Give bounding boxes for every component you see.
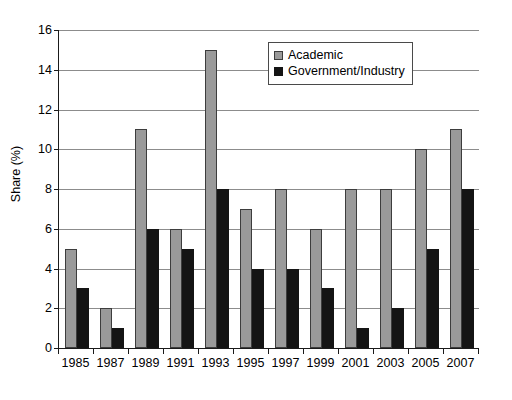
bar-academic <box>135 129 147 348</box>
y-axis-title-text: Share (%) <box>9 146 23 202</box>
bar-academic <box>275 189 287 348</box>
bar-academic <box>65 249 77 348</box>
x-axis-tick-label: 1989 <box>132 356 160 370</box>
bar-government-industry <box>287 269 299 349</box>
x-axis-tick-label: 1987 <box>97 356 125 370</box>
bar-academic <box>415 149 427 348</box>
bar-group <box>94 30 129 348</box>
x-axis-tick-mark <box>373 348 374 354</box>
bar-government-industry <box>217 189 229 348</box>
x-axis-tick-marks <box>58 348 478 354</box>
bar-government-industry <box>112 328 124 348</box>
legend-swatch-icon <box>274 51 283 60</box>
x-axis-tick-mark <box>233 348 234 354</box>
legend-label: Government/Industry <box>288 64 405 80</box>
bar-academic <box>170 229 182 348</box>
bar-academic <box>205 50 217 348</box>
chart-figure: Share (%) 0246810121416 1985198719891991… <box>0 0 512 400</box>
legend-swatch-icon <box>274 67 283 76</box>
x-axis-tick-label: 2007 <box>447 356 475 370</box>
y-axis-tick-label: 0 <box>45 341 52 355</box>
bar-group <box>444 30 479 348</box>
x-axis-tick-label: 1997 <box>272 356 300 370</box>
y-axis-tick-label: 6 <box>45 222 52 236</box>
bar-academic <box>345 189 357 348</box>
x-axis-tick-label: 1991 <box>167 356 195 370</box>
x-axis-tick-label: 2005 <box>412 356 440 370</box>
bar-group <box>164 30 199 348</box>
bar-group <box>59 30 94 348</box>
x-axis-tick-label: 1985 <box>62 356 90 370</box>
x-axis-tick-mark <box>93 348 94 354</box>
x-axis-tick-mark <box>443 348 444 354</box>
y-axis-tick-label: 10 <box>38 142 52 156</box>
bar-academic <box>100 308 112 348</box>
x-axis-tick-label: 2001 <box>342 356 370 370</box>
bar-government-industry <box>252 269 264 349</box>
x-axis-tick-mark <box>303 348 304 354</box>
x-axis-tick-label: 2003 <box>377 356 405 370</box>
y-axis-tick-label: 2 <box>45 301 52 315</box>
bar-academic <box>380 189 392 348</box>
bar-government-industry <box>182 249 194 348</box>
x-axis-tick-mark <box>128 348 129 354</box>
bar-government-industry <box>462 189 474 348</box>
bar-government-industry <box>322 288 334 348</box>
y-axis-tick-label: 8 <box>45 182 52 196</box>
x-axis-tick-mark <box>478 348 479 354</box>
legend-item: Academic <box>274 48 405 64</box>
x-axis-tick-mark <box>338 348 339 354</box>
legend-item: Government/Industry <box>274 64 405 80</box>
y-axis-tick-label: 16 <box>38 23 52 37</box>
bar-government-industry <box>392 308 404 348</box>
x-axis-tick-label: 1995 <box>237 356 265 370</box>
legend: AcademicGovernment/Industry <box>268 42 413 85</box>
bar-academic <box>310 229 322 348</box>
bar-government-industry <box>357 328 369 348</box>
x-axis-tick-label: 1993 <box>202 356 230 370</box>
bar-government-industry <box>427 249 439 348</box>
y-axis-tick-label: 12 <box>38 103 52 117</box>
x-axis-tick-mark <box>268 348 269 354</box>
x-axis-tick-mark <box>163 348 164 354</box>
x-axis-tick-mark <box>408 348 409 354</box>
x-axis-tick-label: 1999 <box>307 356 335 370</box>
y-axis-tick-label: 4 <box>45 262 52 276</box>
bar-academic <box>450 129 462 348</box>
legend-label: Academic <box>288 48 343 64</box>
bar-government-industry <box>77 288 89 348</box>
y-axis-tick-labels: 0246810121416 <box>24 24 52 348</box>
x-axis-tick-mark <box>198 348 199 354</box>
x-axis-tick-labels: 1985198719891991199319951997199920012003… <box>58 356 478 376</box>
bar-government-industry <box>147 229 159 348</box>
bar-group <box>199 30 234 348</box>
x-axis-tick-mark <box>58 348 59 354</box>
bar-group <box>234 30 269 348</box>
bar-group <box>129 30 164 348</box>
bar-academic <box>240 209 252 348</box>
y-axis-tick-label: 14 <box>38 63 52 77</box>
bar-group <box>409 30 444 348</box>
